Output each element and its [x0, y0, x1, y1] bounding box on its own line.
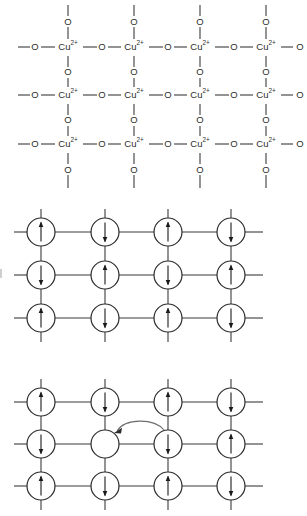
cu-label: Cu2+: [124, 87, 144, 100]
lattice-site-spin-down: [154, 430, 182, 458]
o-label: O: [262, 66, 269, 77]
o-label: O: [230, 89, 237, 100]
lattice-site-spin-up: [154, 388, 182, 416]
o-label: O: [196, 16, 203, 27]
lattice-site-spin-up: [217, 430, 245, 458]
lattice-site-spin-down: [91, 218, 119, 246]
cu-label: Cu2+: [256, 87, 276, 100]
cu-label: Cu2+: [124, 39, 144, 52]
panel-cuo2-plane: Cu2+ Cu2+ Cu2+ Cu2+ Cu2+ Cu2+ Cu2+ Cu2+ …: [0, 0, 307, 200]
lattice-site-spin-down: [217, 472, 245, 500]
lattice-site-spin-down: [27, 261, 55, 289]
lattice-site-spin-down: [217, 304, 245, 332]
o-label: O: [64, 164, 71, 175]
cu-label: Cu2+: [124, 136, 144, 149]
o-label: O: [98, 89, 105, 100]
o-label: O: [130, 164, 137, 175]
o-label: O: [230, 138, 237, 149]
hole-hopping-arc: [117, 421, 164, 431]
o-label: O: [164, 89, 171, 100]
cu-label: Cu2+: [190, 87, 210, 100]
panel-antiferromagnet: [0, 205, 307, 355]
lattice-site-hole: [91, 430, 119, 458]
lattice-site-spin-down: [217, 388, 245, 416]
lattice-site-spin-down: [91, 388, 119, 416]
o-label: O: [130, 66, 137, 77]
lattice-site-spin-up: [27, 304, 55, 332]
cu-label: Cu2+: [58, 136, 78, 149]
figure-root: Cu2+ Cu2+ Cu2+ Cu2+ Cu2+ Cu2+ Cu2+ Cu2+ …: [0, 0, 307, 516]
o-label: O: [64, 16, 71, 27]
o-label: O: [31, 138, 38, 149]
lattice-site-spin-down: [91, 472, 119, 500]
lattice-site-spin-up: [154, 304, 182, 332]
lattice-site-spin-up: [154, 472, 182, 500]
lattice-site-spin-down: [91, 304, 119, 332]
cu-label: Cu2+: [58, 39, 78, 52]
o-label: O: [196, 114, 203, 125]
left-edge-artifact: [0, 269, 2, 278]
cu-label: Cu2+: [256, 39, 276, 52]
o-label: O: [164, 138, 171, 149]
lattice-site-spin-up: [91, 261, 119, 289]
o-label: O: [262, 114, 269, 125]
o-label: O: [296, 89, 303, 100]
o-label: O: [196, 66, 203, 77]
o-label: O: [262, 164, 269, 175]
o-label: O: [230, 41, 237, 52]
o-label: O: [164, 41, 171, 52]
cu-label: Cu2+: [190, 136, 210, 149]
cuo2-atom-labels: Cu2+ Cu2+ Cu2+ Cu2+ Cu2+ Cu2+ Cu2+ Cu2+ …: [31, 16, 303, 175]
o-label: O: [98, 41, 105, 52]
lattice-site-spin-up: [27, 472, 55, 500]
o-label: O: [64, 66, 71, 77]
panel-hole-hopping: [0, 376, 307, 516]
o-label: O: [130, 114, 137, 125]
o-label: O: [64, 114, 71, 125]
o-label: O: [31, 89, 38, 100]
o-label: O: [296, 41, 303, 52]
lattice-site-spin-down: [154, 261, 182, 289]
lattice-site-spin-up: [217, 261, 245, 289]
lattice-site-spin-up: [154, 218, 182, 246]
lattice-site-spin-down: [27, 430, 55, 458]
o-label: O: [296, 138, 303, 149]
cu-label: Cu2+: [190, 39, 210, 52]
hole-hopping-arrow-group: [114, 421, 164, 433]
o-label: O: [196, 164, 203, 175]
cu-label: Cu2+: [256, 136, 276, 149]
cu-label: Cu2+: [58, 87, 78, 100]
o-label: O: [262, 16, 269, 27]
o-label: O: [98, 138, 105, 149]
lattice-site-spin-up: [27, 218, 55, 246]
lattice-site-spin-down: [217, 218, 245, 246]
lattice-site-spin-up: [27, 388, 55, 416]
o-label: O: [130, 16, 137, 27]
o-label: O: [31, 41, 38, 52]
